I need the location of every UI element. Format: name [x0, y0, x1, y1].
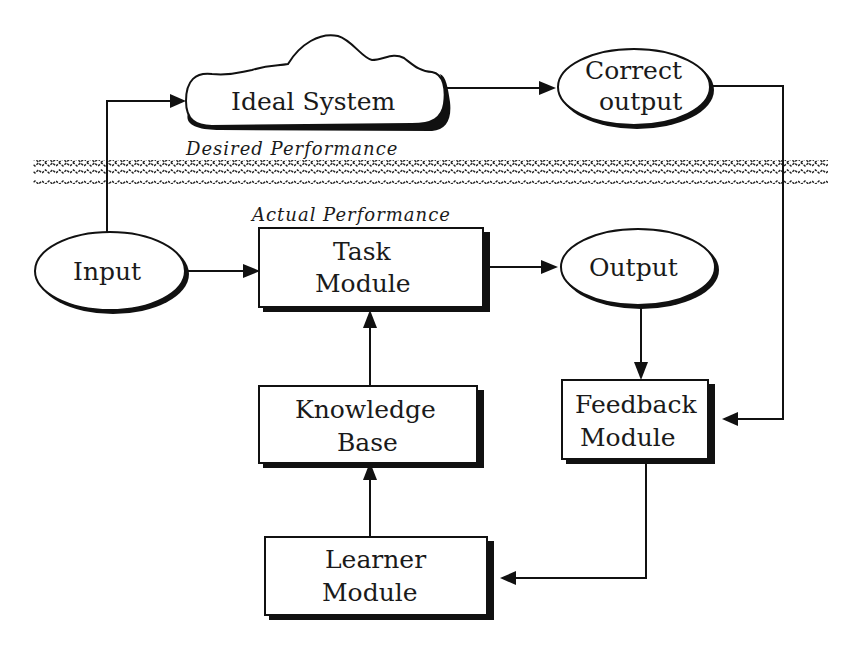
- actual-performance-label: Actual Performance: [250, 204, 451, 225]
- learner-module-line1: Learner: [325, 545, 426, 574]
- feedback-module-line2: Module: [580, 423, 676, 452]
- feedback-module-node: Feedback Module: [562, 380, 715, 464]
- learner-module-line2: Module: [322, 578, 418, 607]
- learner-module-node: Learner Module: [265, 537, 494, 620]
- correct-output-line2: output: [599, 87, 682, 116]
- performance-separator: [33, 160, 828, 184]
- task-module-line1: Task: [333, 237, 391, 266]
- input-node: Input: [35, 232, 189, 314]
- desired-performance-label: Desired Performance: [185, 138, 398, 159]
- task-module-node: Task Module: [259, 228, 490, 312]
- task-module-line2: Module: [315, 269, 411, 298]
- learning-system-diagram: Desired Performance Actual Performance: [0, 0, 851, 651]
- knowledge-base-node: Knowledge Base: [259, 386, 484, 468]
- correct-output-line1: Correct: [585, 56, 682, 85]
- output-node: Output: [561, 229, 719, 309]
- ideal-system-node: Ideal System: [186, 35, 450, 131]
- knowledge-base-line1: Knowledge: [295, 395, 436, 424]
- knowledge-base-line2: Base: [337, 428, 398, 457]
- feedback-module-line1: Feedback: [575, 390, 697, 419]
- output-label: Output: [589, 253, 678, 282]
- ideal-system-label: Ideal System: [231, 87, 395, 116]
- correct-output-node: Correct output: [558, 49, 714, 129]
- input-label: Input: [73, 257, 141, 286]
